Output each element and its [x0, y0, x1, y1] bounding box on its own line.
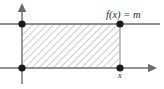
math-figure: f(x) = m x: [0, 0, 164, 89]
hatched-region: [22, 24, 120, 68]
x-axis-arrow-icon: [148, 64, 157, 72]
point-top-left: [18, 20, 25, 27]
y-axis-arrow-icon: [18, 3, 26, 12]
figure-canvas: f(x) = m x: [0, 0, 164, 89]
function-label: f(x) = m: [106, 9, 141, 21]
point-top-right: [116, 20, 123, 27]
x-point-label: x: [117, 70, 122, 80]
point-origin: [18, 64, 25, 71]
